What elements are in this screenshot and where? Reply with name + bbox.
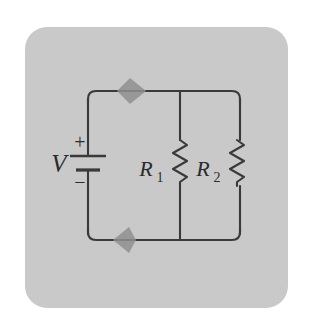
resistor-r2-label: R — [195, 156, 210, 181]
resistor-r2-subscript: 2 — [214, 170, 221, 185]
polarity-plus-sign: + — [74, 131, 85, 153]
resistor-r1-label: R — [138, 156, 153, 181]
circuit-diagram-canvas: V + − R 1 R 2 — [0, 0, 311, 329]
circuit-figure: V + − R 1 R 2 — [0, 0, 311, 329]
resistor-r1-subscript: 1 — [157, 170, 164, 185]
polarity-minus-sign: − — [74, 171, 85, 193]
